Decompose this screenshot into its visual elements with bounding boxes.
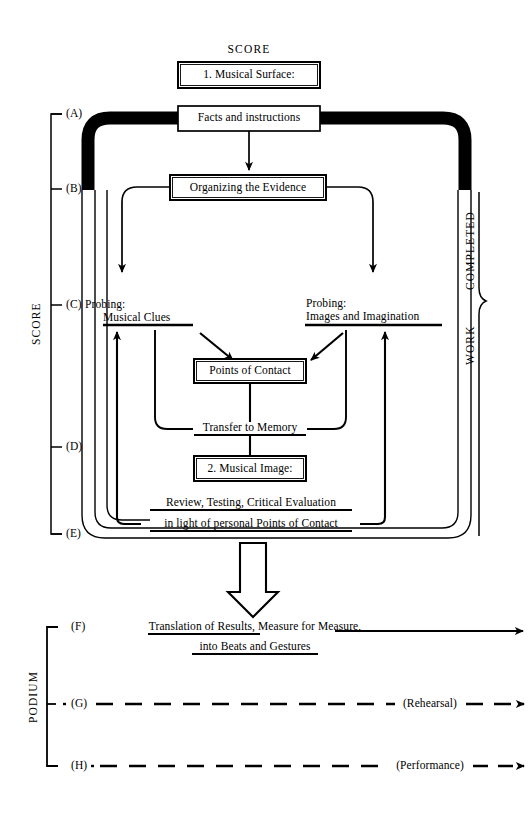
label-probing-images-line1: Probing: — [306, 297, 346, 310]
podium-bracket-label: PODIUM — [27, 671, 39, 723]
nested-return-loops — [107, 190, 150, 520]
stage-label-c: (C) — [66, 298, 82, 311]
arrow-organizing-to-left-probing — [122, 187, 170, 272]
arrow-review-to-images-imagination — [360, 332, 385, 524]
arrow-clues-to-points — [200, 333, 233, 360]
annotation-performance: (Performance) — [392, 759, 468, 772]
box-label-musical-image: 2. Musical Image: — [207, 462, 292, 475]
feedback-transfer-to-images — [307, 330, 346, 429]
score-bracket-label: SCORE — [30, 302, 42, 345]
label-translation-line2: into Beats and Gestures — [199, 640, 310, 653]
box-label-organizing-evidence: Organizing the Evidence — [190, 181, 306, 194]
label-probing-musical-clues-line2: Musical Clues — [103, 311, 170, 324]
stage-label-f: (F) — [71, 620, 85, 633]
arrow-images-to-points — [311, 333, 343, 360]
brace-label-work: WORK — [464, 325, 476, 365]
diagram-canvas: SCORE 1. Musical Surface: Facts and inst… — [0, 0, 531, 820]
arrow-review-to-musical-clues — [117, 332, 141, 524]
label-probing-images-line2: Images and Imagination — [306, 310, 419, 323]
stage-label-d: (D) — [66, 440, 82, 453]
score-bracket — [51, 114, 62, 534]
score-caption: SCORE — [227, 43, 270, 56]
box-label-points-of-contact: Points of Contact — [209, 364, 291, 377]
label-translation-line1: Translation of Results, Measure for Meas… — [149, 620, 362, 633]
stage-label-a: (A) — [66, 107, 82, 120]
big-down-arrow — [228, 543, 278, 617]
annotation-rehearsal: (Rehearsal) — [399, 697, 461, 710]
stage-label-h: (H) — [71, 759, 87, 772]
completed-work-thick-frame — [88, 118, 465, 190]
stage-label-e: (E) — [66, 527, 81, 540]
label-probing-musical-clues-line1: Probing: — [85, 298, 125, 311]
podium-bracket — [47, 627, 58, 766]
box-label-musical-surface: 1. Musical Surface: — [203, 68, 295, 81]
label-review-testing-line2: in light of personal Points of Contact — [164, 517, 338, 530]
brace-label-completed: COMPLETED — [464, 211, 476, 290]
stage-label-g: (G) — [71, 697, 87, 710]
label-review-testing-line1: Review, Testing, Critical Evaluation — [166, 496, 336, 509]
box-label-facts-instructions: Facts and instructions — [198, 111, 301, 124]
stage-label-b: (B) — [66, 182, 82, 195]
label-transfer-to-memory: Transfer to Memory — [203, 421, 298, 434]
arrow-organizing-to-right-probing — [326, 187, 373, 272]
completed-work-brace — [479, 192, 486, 536]
feedback-transfer-to-clues — [155, 330, 193, 429]
